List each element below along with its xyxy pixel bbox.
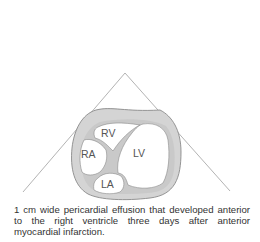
label-lv: LV: [133, 147, 145, 159]
label-la: LA: [101, 178, 114, 190]
label-rv: RV: [101, 127, 115, 139]
label-ra: RA: [81, 148, 96, 160]
figure-caption: 1 cm wide pericardial effusion that deve…: [14, 204, 250, 238]
